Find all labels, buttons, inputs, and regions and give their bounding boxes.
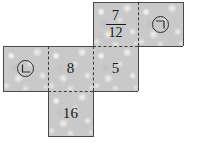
net-outline-middle-right-bottom [93,91,138,92]
cube-face-marker-giyeok [138,2,183,47]
face-label-5: 5 [112,61,120,76]
circled-nieun-icon [17,60,34,77]
fraction-7-12: 7 12 [106,9,126,40]
face-label-8: 8 [67,61,75,76]
net-outline-bottom-right [93,91,94,136]
net-outline-middle-right-right [138,46,139,91]
cube-net-diagram: 7 12 8 5 16 [0,0,199,157]
fraction-denominator: 12 [106,25,126,40]
fold-line-upper-horizontal [93,46,138,47]
fold-line-top-vertical [138,2,139,46]
circled-giyeok-icon [152,16,169,33]
fraction-numerator: 7 [109,9,122,24]
fold-line-lower-horizontal [48,91,93,92]
net-outline-top-right-bottom [138,46,183,47]
net-outline-bottom-left [48,91,49,136]
net-outline-top-right-right [183,2,184,46]
net-outline-middle-left-bottom [3,91,48,92]
face-label-16: 16 [63,106,78,121]
fold-line-middle-left-vertical [48,46,49,91]
fold-line-middle-right-vertical [93,46,94,91]
cube-face-marker-nieun [3,46,48,91]
net-outline-top-middle-left [93,2,94,46]
cube-face-number-16: 16 [48,91,93,136]
cube-face-number-8: 8 [48,46,93,91]
net-outline-bottom-bottom [48,136,94,137]
cube-face-fraction-7-12: 7 12 [93,2,138,47]
net-outline-middle-left-left [3,46,4,91]
cube-face-number-5: 5 [93,46,138,91]
